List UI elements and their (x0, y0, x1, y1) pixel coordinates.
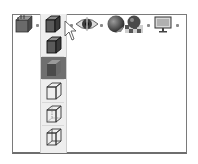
view-settings-button[interactable] (153, 14, 173, 34)
view-orientation-button[interactable] (14, 14, 34, 34)
flyout-item-shaded[interactable] (41, 57, 66, 79)
flyout-item-hidden-lines-removed[interactable] (41, 80, 66, 102)
flyout-item-wireframe[interactable] (41, 126, 66, 148)
display-style-button[interactable] (43, 14, 63, 34)
view-orientation-dropdown-arrow[interactable] (36, 24, 39, 27)
hidden-lines-removed-icon (44, 81, 64, 101)
view-settings-dropdown-arrow[interactable] (176, 24, 179, 27)
hide-show-dropdown-arrow[interactable] (100, 24, 103, 27)
appearance-sphere-icon (106, 14, 126, 34)
shaded-with-edges-icon (44, 35, 64, 55)
graphics-area-panel (12, 14, 187, 154)
apply-scene-button[interactable] (124, 14, 144, 34)
monitor-icon (153, 14, 173, 34)
flyout-item-hidden-lines-visible[interactable] (41, 103, 66, 125)
shaded-icon (44, 58, 64, 78)
hidden-lines-visible-icon (44, 104, 64, 124)
shaded-with-edges-icon (43, 14, 63, 34)
scene-icon (124, 14, 144, 34)
cursor-arrow-icon (64, 20, 80, 42)
apply-scene-dropdown-arrow[interactable] (147, 24, 150, 27)
view-orientation-icon (14, 14, 34, 34)
wireframe-icon (44, 127, 64, 147)
mouse-cursor (64, 20, 80, 42)
edit-appearance-button[interactable] (106, 14, 126, 34)
flyout-item-shaded-with-edges[interactable] (41, 34, 66, 56)
